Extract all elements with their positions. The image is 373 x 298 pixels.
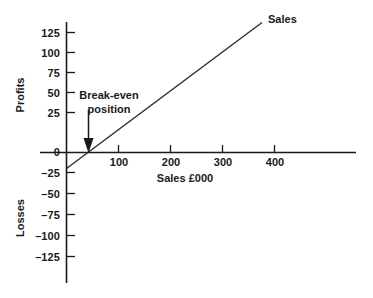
y-tick-label-minus25: –25 (20, 168, 60, 179)
series-label-sales: Sales (268, 14, 297, 25)
y-tick-label-minus75: –75 (20, 210, 60, 221)
y-axis-ticks (67, 33, 76, 257)
y-tick-label-minus125: –125 (16, 252, 60, 263)
y-tick-label-50: 50 (24, 88, 60, 99)
break-even-annotation-line1: Break-even (79, 88, 138, 102)
y-tick-label-75: 75 (24, 68, 60, 79)
x-tick-label-100: 100 (110, 157, 129, 168)
y-axis-label-profits: Profits (15, 78, 26, 113)
x-tick-label-300: 300 (214, 157, 233, 168)
y-tick-label-0: 0 (24, 147, 60, 158)
y-tick-label-125: 125 (24, 28, 60, 39)
x-axis-label-sales: Sales £000 (157, 173, 213, 184)
x-axis-ticks (119, 145, 275, 153)
break-even-annotation-line2: position (88, 102, 131, 116)
x-tick-label-200: 200 (162, 157, 181, 168)
break-even-arrow (84, 110, 94, 153)
y-tick-label-minus50: –50 (20, 189, 60, 200)
y-tick-label-25: 25 (24, 108, 60, 119)
y-axis-label-losses: Losses (15, 199, 26, 237)
break-even-chart: 125 100 75 50 25 0 –25 –50 –75 –100 –125… (0, 0, 373, 298)
x-tick-label-400: 400 (266, 157, 285, 168)
y-tick-label-100: 100 (24, 48, 60, 59)
